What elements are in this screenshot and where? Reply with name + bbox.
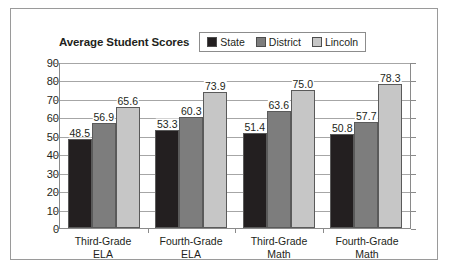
y-axis-tick-mark <box>54 211 59 212</box>
x-axis-category-label-line: Third-Grade <box>59 235 147 248</box>
bar-value-label: 65.6 <box>117 96 139 107</box>
plot-wrap: 48.556.965.653.360.373.951.463.675.050.8… <box>59 63 411 229</box>
x-axis-category-label-line: Fourth-Grade <box>323 235 411 248</box>
y-axis-tick-mark <box>54 192 59 193</box>
y-axis-tick-label: 70 <box>17 94 59 105</box>
chart-header: Average Student Scores StateDistrictLinc… <box>11 29 439 55</box>
bar-group: 48.556.965.6 <box>60 63 148 228</box>
bar-state: 51.4 <box>243 133 267 228</box>
legend-item-state: State <box>207 36 245 48</box>
legend-swatch-icon <box>256 37 266 47</box>
y-axis-tick-mark <box>54 155 59 156</box>
bar-value-label: 57.7 <box>355 110 377 121</box>
y-axis-tick-mark-right <box>411 174 416 175</box>
y-axis-tick-label: 80 <box>17 76 59 87</box>
category-separator <box>148 228 149 233</box>
y-axis-tick-mark <box>54 229 59 230</box>
bar-state: 53.3 <box>155 130 179 228</box>
bar-district: 63.6 <box>267 111 291 228</box>
x-axis-category-label-line: ELA <box>147 248 235 261</box>
y-axis-tick-mark <box>54 137 59 138</box>
y-axis-tick-mark-right <box>411 137 416 138</box>
y-axis-tick-label: 10 <box>17 205 59 216</box>
y-axis-tick-label: 90 <box>17 58 59 69</box>
y-axis-tick-mark <box>54 118 59 119</box>
category-separator <box>323 228 324 233</box>
y-axis-tick-mark <box>54 174 59 175</box>
x-axis-category-label: Fourth-GradeELA <box>147 235 235 260</box>
bar-state: 50.8 <box>330 134 354 228</box>
legend-item-label: State <box>220 36 245 48</box>
bar-value-label: 75.0 <box>292 78 314 89</box>
y-axis-tick-label: 40 <box>17 150 59 161</box>
bar-district: 56.9 <box>92 123 116 228</box>
bar-value-label: 78.3 <box>379 72 401 83</box>
y-axis-tick-mark-right <box>411 229 416 230</box>
y-axis-tick-mark-right <box>411 155 416 156</box>
bar-district: 60.3 <box>179 117 203 228</box>
x-axis-category-label-line: Math <box>323 248 411 261</box>
bar-lincoln: 73.9 <box>203 92 227 228</box>
x-axis-category-label: Third-GradeELA <box>59 235 147 260</box>
bar-value-label: 63.6 <box>268 99 290 110</box>
bar-value-label: 73.9 <box>204 80 226 91</box>
chart-frame: Average Student Scores StateDistrictLinc… <box>10 8 438 260</box>
x-axis-category-label-line: ELA <box>59 248 147 261</box>
bars-layer: 48.556.965.653.360.373.951.463.675.050.8… <box>60 63 410 228</box>
bar-group: 53.360.373.9 <box>148 63 236 228</box>
y-axis-tick-label: 20 <box>17 187 59 198</box>
bar-value-label: 56.9 <box>93 112 115 123</box>
y-axis-tick-mark-right <box>411 211 416 212</box>
y-axis-tick-mark-right <box>411 81 416 82</box>
y-axis-tick-mark-right <box>411 192 416 193</box>
y-axis-tick-label: 60 <box>17 113 59 124</box>
y-axis-tick-mark-right <box>411 118 416 119</box>
y-axis-tick-mark-right <box>411 100 416 101</box>
x-axis-category-label-line: Fourth-Grade <box>147 235 235 248</box>
x-axis-labels: Third-GradeELAFourth-GradeELAThird-Grade… <box>59 235 411 260</box>
y-axis-tick-label: 30 <box>17 168 59 179</box>
legend-swatch-icon <box>207 37 217 47</box>
chart-legend: StateDistrictLincoln <box>199 32 366 52</box>
legend-item-lincoln: Lincoln <box>312 36 358 48</box>
y-axis-tick-mark-right <box>411 63 416 64</box>
bar-state: 48.5 <box>68 139 92 228</box>
y-axis-tick-mark <box>54 81 59 82</box>
bar-lincoln: 65.6 <box>116 107 140 228</box>
bar-district: 57.7 <box>354 122 378 228</box>
legend-swatch-icon <box>312 37 322 47</box>
bar-group: 51.463.675.0 <box>235 63 323 228</box>
bar-lincoln: 78.3 <box>378 84 402 228</box>
x-axis-category-label: Third-GradeMath <box>235 235 323 260</box>
y-axis-tick-mark <box>54 63 59 64</box>
legend-item-district: District <box>256 36 301 48</box>
category-separator <box>235 228 236 233</box>
plot-area: 48.556.965.653.360.373.951.463.675.050.8… <box>59 63 411 229</box>
y-axis-tick-label: 0 <box>17 224 59 235</box>
legend-item-label: District <box>269 36 301 48</box>
y-axis-tick-label: 50 <box>17 131 59 142</box>
bar-lincoln: 75.0 <box>291 90 315 228</box>
legend-item-label: Lincoln <box>325 36 358 48</box>
bar-value-label: 50.8 <box>331 123 353 134</box>
x-axis-category-label-line: Third-Grade <box>235 235 323 248</box>
bar-value-label: 51.4 <box>244 122 266 133</box>
y-axis-tick-mark <box>54 100 59 101</box>
bar-value-label: 60.3 <box>180 105 202 116</box>
bar-value-label: 48.5 <box>69 127 91 138</box>
page-title: Average Student Scores <box>59 36 189 48</box>
x-axis-category-label: Fourth-GradeMath <box>323 235 411 260</box>
bar-value-label: 53.3 <box>156 118 178 129</box>
x-axis-category-label-line: Math <box>235 248 323 261</box>
bar-group: 50.857.778.3 <box>323 63 411 228</box>
